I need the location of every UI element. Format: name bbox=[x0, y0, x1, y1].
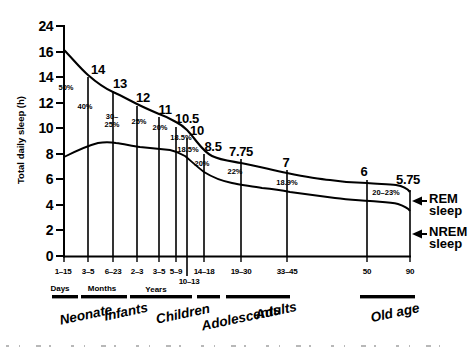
curve-value-label: 7 bbox=[283, 156, 290, 169]
curve-value-label: 12 bbox=[136, 91, 150, 104]
x-tick-label-offset: 10–13 bbox=[179, 278, 200, 286]
rem-percent-label: 20–23% bbox=[372, 189, 400, 197]
x-tick-label: 2–3 bbox=[131, 268, 143, 276]
y-tick-label: 10 bbox=[38, 121, 53, 135]
age-unit-label: Days bbox=[50, 285, 69, 293]
y-axis-title: Total daily sleep (h) bbox=[16, 96, 26, 184]
age-unit-label: Years bbox=[145, 286, 166, 294]
rem-percent-label: 20% bbox=[152, 124, 167, 132]
x-tick-label: 3–5 bbox=[153, 268, 165, 276]
curve-value-label: 5.75 bbox=[396, 173, 420, 186]
curve-value-label: 13 bbox=[113, 77, 127, 90]
y-tick-label: 14 bbox=[38, 70, 53, 84]
curve-value-label: 11 bbox=[158, 103, 171, 116]
y-axis-ticks bbox=[56, 26, 64, 256]
x-tick-label: 3–5 bbox=[82, 268, 94, 276]
x-tick-label: 90 bbox=[406, 268, 414, 276]
x-tick-label: 14–18 bbox=[194, 268, 215, 276]
nrem-sleep-annotation: NREM sleep bbox=[429, 226, 467, 250]
sleep-ontogeny-figure: Total daily sleep (h) 24 16 14 12 10 8 6… bbox=[0, 0, 476, 347]
rem-percent-label: 30– 25% bbox=[104, 113, 119, 129]
y-tick-label: 2 bbox=[46, 223, 53, 237]
rem-percent-label: 18.9% bbox=[276, 179, 297, 187]
x-tick-label: 1–15 bbox=[55, 268, 72, 276]
y-tick-label: 12 bbox=[38, 96, 53, 110]
x-tick-label: 50 bbox=[363, 268, 371, 276]
rem-percent-label: 18.5% bbox=[170, 134, 191, 142]
curve-value-label: 7.75 bbox=[229, 145, 253, 158]
curve-value-label: 8.5 bbox=[204, 140, 221, 153]
y-tick-label: 8 bbox=[46, 147, 53, 161]
curve-value-label: 6 bbox=[361, 165, 368, 178]
x-tick-label: 6–23 bbox=[105, 268, 122, 276]
age-unit-label: Months bbox=[88, 285, 116, 293]
x-tick-label: 19–30 bbox=[231, 268, 252, 276]
curve-value-label: 14 bbox=[91, 63, 105, 76]
rem-percent-label: 40% bbox=[77, 103, 92, 111]
nrem-arrow-icon bbox=[412, 230, 427, 239]
curve-value-label: 10 bbox=[190, 124, 204, 137]
stage-underline-bars bbox=[52, 295, 415, 298]
rem-sleep-annotation: REM sleep bbox=[429, 193, 462, 217]
rem-percent-label: 50% bbox=[58, 84, 73, 92]
y-tick-label: 6 bbox=[46, 172, 53, 186]
y-tick-label: 24 bbox=[38, 19, 53, 33]
rem-arrow-icon bbox=[412, 197, 427, 206]
x-tick-label: 33–45 bbox=[277, 268, 298, 276]
y-tick-label: 0 bbox=[46, 249, 53, 263]
x-axis-ticks bbox=[64, 257, 410, 262]
y-tick-label: 4 bbox=[46, 198, 53, 212]
rem-percent-label: 18.5% bbox=[177, 146, 198, 154]
rem-percent-label: 20% bbox=[194, 160, 209, 168]
y-tick-label: 16 bbox=[38, 45, 53, 59]
x-tick-label: 5–9 bbox=[170, 268, 182, 276]
rem-percent-label: 25% bbox=[131, 118, 146, 126]
rem-percent-label: 22% bbox=[227, 168, 242, 176]
